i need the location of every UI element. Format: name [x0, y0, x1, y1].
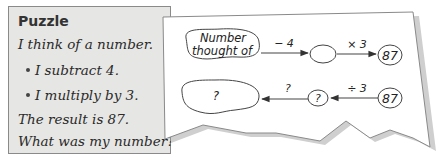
- start-label-line1: Number: [200, 31, 247, 45]
- op-divide-label: ÷ 3: [347, 82, 367, 95]
- op-inverse-unknown-label: ?: [285, 82, 291, 95]
- op-multiply-label: × 3: [347, 38, 367, 51]
- diagram-paper: Number thought of − 4 × 3 87 ? ? ? ÷ 3 8…: [0, 0, 443, 161]
- result-value: 87: [382, 48, 398, 63]
- answer-label: ?: [213, 89, 220, 103]
- middle-circle: [310, 45, 336, 63]
- op-subtract-label: − 4: [274, 37, 294, 50]
- middle-unknown-label: ?: [315, 92, 321, 105]
- start-label-line2: thought of: [192, 44, 254, 58]
- start-value: 87: [382, 91, 398, 106]
